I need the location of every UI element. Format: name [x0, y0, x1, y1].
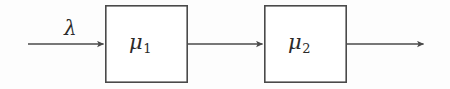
- diagram-graphics-layer: [0, 0, 450, 89]
- server-2-label: μ2: [288, 32, 310, 55]
- server-1-label: μ1: [129, 32, 151, 55]
- mu-symbol: μ: [288, 30, 302, 54]
- mu-subscript: 1: [143, 41, 151, 56]
- mu-symbol: μ: [129, 30, 143, 54]
- lambda-symbol: λ: [64, 16, 77, 40]
- mu-subscript: 2: [302, 41, 310, 56]
- arrival-rate-label: λ: [64, 18, 77, 38]
- block-flow-diagram: λ μ1 μ2: [0, 0, 450, 89]
